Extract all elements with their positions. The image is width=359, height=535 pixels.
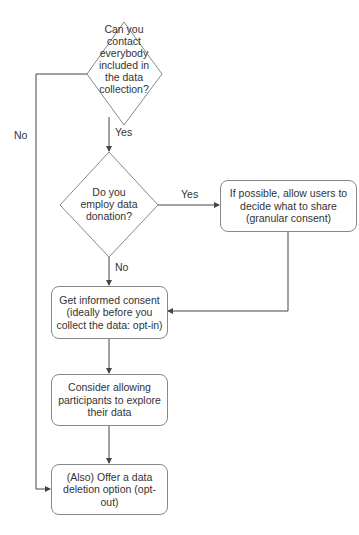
explore-data-box: Consider allowing participants to explor… xyxy=(51,374,168,426)
text-line: the data xyxy=(88,71,160,83)
decision-contact-text: Can you contact everybody included in th… xyxy=(88,23,160,95)
text-line: everybody xyxy=(88,47,160,59)
text-line: donation? xyxy=(69,210,149,222)
box-text: Get informed consent (ideally before you… xyxy=(56,294,163,332)
box-text: If possible, allow users to decide what … xyxy=(225,187,352,225)
text-line: collection? xyxy=(88,83,160,95)
flowchart-connectors xyxy=(0,0,359,535)
decision-donation-text: Do you employ data donation? xyxy=(69,186,149,222)
text-line: Can you xyxy=(88,23,160,35)
informed-consent-box: Get informed consent (ideally before you… xyxy=(51,286,168,339)
text-line: contact xyxy=(88,35,160,47)
text-line: Do you xyxy=(69,186,149,198)
edge-label-yes-donation: Yes xyxy=(181,188,198,200)
edge-label-no-donation: No xyxy=(115,261,128,273)
text-line: included in xyxy=(88,59,160,71)
box-text: (Also) Offer a data deletion option (opt… xyxy=(56,471,163,509)
text-line: employ data xyxy=(69,198,149,210)
box-text: Consider allowing participants to explor… xyxy=(56,381,163,419)
granular-consent-box: If possible, allow users to decide what … xyxy=(220,180,357,232)
edge-label-yes-contact: Yes xyxy=(115,126,132,138)
edge-label-no-contact: No xyxy=(14,129,27,141)
deletion-option-box: (Also) Offer a data deletion option (opt… xyxy=(51,464,168,515)
